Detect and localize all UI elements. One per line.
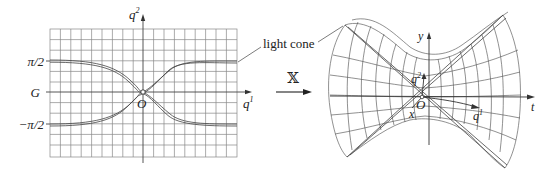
q2-arrow-icon <box>141 14 145 21</box>
y-axis-label: y <box>417 29 424 43</box>
diagram-canvas: q2 q1 O π/2 G −π/2 light cone 𝕏 <box>0 0 555 178</box>
hyperboloid-light-cone <box>345 15 507 168</box>
t-arrow-icon <box>527 95 535 100</box>
t-axis <box>330 96 528 97</box>
q1-axis-label: q1 <box>243 95 254 111</box>
q2-label: q2 <box>411 71 421 86</box>
y-arrow-icon <box>427 32 431 39</box>
tick-label-neg-pi-half: −π/2 <box>19 117 45 132</box>
tick-label-pi-half: π/2 <box>27 54 44 69</box>
light-cone-label: light cone <box>263 36 315 51</box>
t-axis-label: t <box>531 100 535 114</box>
x-axis-label: x <box>408 107 415 121</box>
q2-curve-axis <box>422 76 424 97</box>
right-axes <box>330 36 528 145</box>
origin-marker <box>141 90 145 94</box>
q1-label: q1 <box>473 108 483 123</box>
operator-symbol: 𝕏 <box>287 70 299 86</box>
origin-label: O <box>137 96 147 111</box>
operator-arrow-icon <box>303 89 312 95</box>
right-origin-label: O <box>416 97 426 112</box>
q2-axis-label: q2 <box>129 6 140 22</box>
tick-label-g: G <box>31 85 41 100</box>
q1-arrow-icon <box>245 90 252 94</box>
